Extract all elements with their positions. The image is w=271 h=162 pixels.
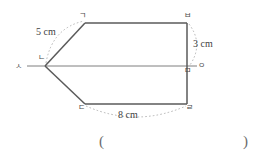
answer-close-paren: ) bbox=[243, 134, 248, 149]
axis-label-ieung: ㅇ bbox=[198, 62, 205, 70]
measure-label-3cm: 3 cm bbox=[193, 39, 213, 49]
measure-label-8cm: 8 cm bbox=[118, 110, 138, 120]
answer-open-paren: ( bbox=[99, 134, 104, 149]
side-digeut-to-nieun bbox=[45, 66, 85, 104]
measure-label-5cm: 5 cm bbox=[36, 27, 56, 37]
problem-figure-page: ㄱ ㅂ ㄴ ㅁ ㄷ ㄹ ㅅ ㅇ 5 cm 3 cm 8 cm ( ) bbox=[0, 0, 271, 162]
vertex-label-digeut: ㄷ bbox=[78, 104, 85, 112]
geometry-figure bbox=[0, 0, 271, 162]
axis-label-siot: ㅅ bbox=[15, 63, 22, 71]
vertex-label-rieul: ㄹ bbox=[186, 104, 193, 112]
vertex-label-bieup: ㅂ bbox=[184, 12, 191, 20]
vertex-label-giyeok: ㄱ bbox=[79, 12, 86, 20]
vertex-label-nieun: ㄴ bbox=[38, 54, 45, 62]
vertex-label-mieum: ㅁ bbox=[184, 67, 191, 75]
